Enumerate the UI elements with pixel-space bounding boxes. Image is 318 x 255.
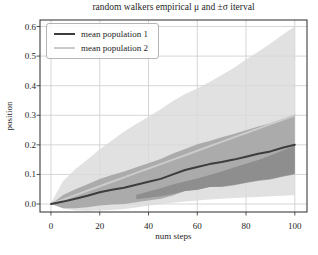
x-tick-label: 60	[184, 221, 210, 231]
y-tick-label: 0.2	[0, 140, 36, 150]
y-tick-label: 0.4	[0, 81, 36, 91]
x-axis-label: num steps	[40, 231, 307, 241]
y-tick-label: 0.6	[0, 22, 36, 32]
chart-title: random walkers empirical μ and ±σ iterva…	[40, 2, 307, 12]
x-tick-label: 0	[38, 221, 64, 231]
legend-line-sample-population-1	[54, 33, 75, 35]
x-tick-label: 40	[136, 221, 162, 231]
legend-entry-population-1: mean population 1	[54, 27, 148, 41]
x-tick-label: 80	[233, 221, 259, 231]
y-tick-label: 0.3	[0, 110, 36, 120]
y-tick-label: 0.1	[0, 169, 36, 179]
y-tick-label: 0.5	[0, 51, 36, 61]
legend-label-population-2: mean population 2	[81, 43, 148, 53]
x-tick-label: 20	[87, 221, 113, 231]
legend-label-population-1: mean population 1	[81, 29, 148, 39]
x-tick-label: 100	[282, 221, 308, 231]
legend: mean population 1 mean population 2	[46, 23, 159, 59]
y-tick-label: 0.0	[0, 199, 36, 209]
legend-line-sample-population-2	[54, 47, 75, 49]
legend-entry-population-2: mean population 2	[54, 41, 148, 55]
